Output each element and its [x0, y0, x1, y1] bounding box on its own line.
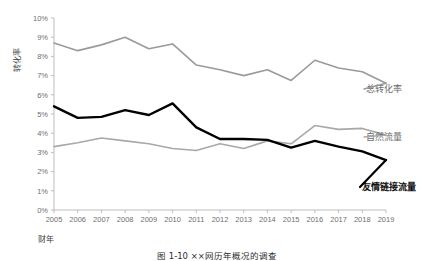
x-tick-label: 2007 [93, 215, 110, 224]
y-tick-label: 9% [37, 33, 48, 42]
x-axis-ticks: 2005200620072008200920102011201220132014… [46, 210, 395, 224]
x-axis-title: 财年 [38, 234, 54, 244]
x-tick-label: 2015 [283, 215, 300, 224]
x-tick-label: 2005 [46, 215, 63, 224]
x-tick-label: 2017 [330, 215, 347, 224]
line-chart: 0%1%2%3%4%5%6%7%8%9%10% 2005200620072008… [0, 0, 434, 261]
y-axis-title: 转化率 [12, 48, 22, 72]
x-tick-label: 2008 [117, 215, 134, 224]
y-tick-label: 8% [37, 52, 48, 61]
y-tick-label: 3% [37, 148, 48, 157]
y-tick-label: 6% [37, 91, 48, 100]
y-tick-label: 4% [37, 129, 48, 138]
y-tick-label: 7% [37, 71, 48, 80]
series-line-0 [54, 37, 386, 83]
x-tick-label: 2010 [164, 215, 181, 224]
series-lines [54, 37, 386, 160]
x-tick-label: 2009 [141, 215, 158, 224]
series-line-2 [54, 103, 386, 160]
y-tick-label: 2% [37, 167, 48, 176]
x-tick-label: 2011 [188, 215, 204, 224]
y-axis-ticks: 0%1%2%3%4%5%6%7%8%9%10% [33, 14, 54, 215]
x-tick-label: 2006 [69, 215, 86, 224]
x-tick-label: 2012 [212, 215, 229, 224]
y-tick-label: 10% [33, 14, 48, 23]
x-tick-label: 2014 [259, 215, 276, 224]
y-tick-label: 5% [37, 110, 48, 119]
chart-container: 0%1%2%3%4%5%6%7%8%9%10% 2005200620072008… [0, 0, 434, 261]
series-label-total: 总转化率 [366, 83, 402, 94]
x-tick-label: 2019 [378, 215, 395, 224]
series-label-referral: 友情链接流量 [362, 181, 416, 192]
x-tick-label: 2016 [307, 215, 324, 224]
x-tick-label: 2018 [354, 215, 371, 224]
x-tick-label: 2013 [235, 215, 252, 224]
y-tick-label: 0% [37, 206, 48, 215]
figure-caption: 图 1-10 ××网历年概况的调查 [157, 251, 277, 261]
y-tick-label: 1% [37, 187, 48, 196]
